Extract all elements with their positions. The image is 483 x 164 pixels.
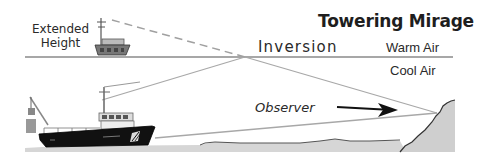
warm-air-label: Warm Air [386,41,439,54]
inversion-label: Inversion [258,40,338,55]
towering-mirage-diagram: Extended Height Towering Mirage Inversio… [0,0,483,164]
cool-air-label: Cool Air [390,64,436,77]
ray-hull-to-observer [155,113,437,138]
extended-label-line2: Height [32,36,89,50]
mirage-sightline-dashed [112,20,245,57]
extended-height-label: Extended Height [32,22,89,50]
observer-label: Observer [255,101,315,114]
observer-arrow [337,103,398,117]
diagram-title: Towering Mirage [318,13,474,30]
real-ship-icon [26,82,155,147]
ray-mast-to-inversion [102,57,245,100]
extended-label-line1: Extended [32,22,89,36]
